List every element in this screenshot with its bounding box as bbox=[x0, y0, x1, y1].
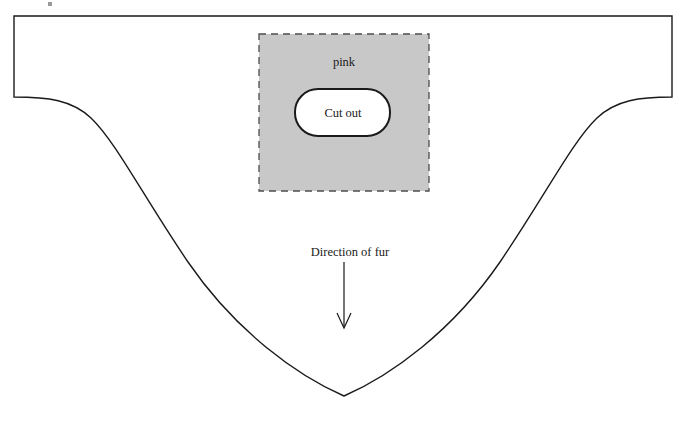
pattern-diagram-canvas: pink Cut out Direction of fur bbox=[0, 0, 690, 429]
scan-artifact-speck bbox=[48, 2, 52, 6]
cutout-label: Cut out bbox=[324, 106, 362, 120]
fabric-region-label: pink bbox=[333, 55, 356, 69]
pattern-diagram-page: pink Cut out Direction of fur bbox=[0, 0, 690, 429]
fur-direction-label: Direction of fur bbox=[311, 245, 390, 259]
